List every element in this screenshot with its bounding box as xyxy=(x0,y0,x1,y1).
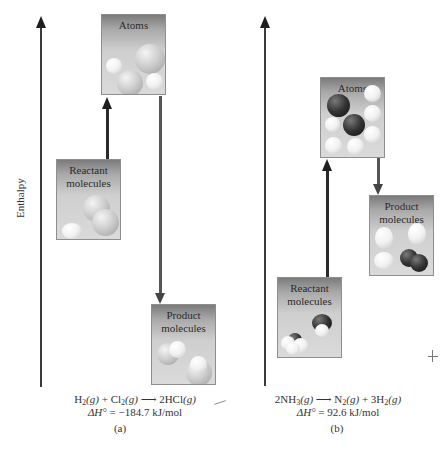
hydrogen-molecule xyxy=(408,223,426,245)
hydrogen-molecule xyxy=(374,252,394,269)
enthalpy-axis-b xyxy=(264,26,266,386)
down-arrowhead-icon xyxy=(155,293,165,304)
bond-breaking-arrow-a xyxy=(106,108,109,159)
caption-b: (b) xyxy=(282,421,392,435)
atoms-label: Atoms xyxy=(102,19,165,32)
atoms-box-b: Atoms xyxy=(320,77,385,158)
hydrogen-atom xyxy=(347,138,364,155)
reactant-label: Reactant molecules xyxy=(57,164,120,190)
hydrogen-atom xyxy=(364,85,381,102)
chlorine-atom xyxy=(117,70,143,95)
caption-a: (a) xyxy=(60,421,180,435)
enthalpy-axis-a xyxy=(40,26,42,387)
up-arrowhead-icon xyxy=(322,159,332,171)
chlorine-atom xyxy=(135,44,165,74)
reactant-molecules-box-b: Reactant molecules xyxy=(277,277,342,358)
nitrogen-atom xyxy=(410,254,428,272)
nitrogen-atom xyxy=(343,114,365,136)
bond-forming-arrow-a xyxy=(159,96,162,293)
reaction-arrow-icon: ⟶ xyxy=(313,393,334,405)
hydrogen-atom xyxy=(106,58,122,74)
atoms-box-a: Atoms xyxy=(101,14,166,95)
reactant-molecules-box-a: Reactant molecules xyxy=(56,159,121,240)
delta-h-a: ΔH° = −184.7 kJ/mol xyxy=(60,405,210,419)
bond-breaking-arrow-b xyxy=(326,170,329,277)
pen-mark xyxy=(214,400,226,405)
delta-h-b: ΔH° = 92.6 kJ/mol xyxy=(268,405,408,419)
hydrogen-atom xyxy=(190,356,207,373)
product-molecules-box-a: Product molecules xyxy=(151,304,216,385)
chlorine-atom xyxy=(92,209,119,236)
hydrogen-molecule xyxy=(62,223,82,239)
nitrogen-atom xyxy=(327,94,350,117)
hydrogen-atom xyxy=(146,73,163,90)
product-label: Product molecules xyxy=(152,309,215,335)
hydrogen-atom xyxy=(315,324,329,337)
bond-forming-arrow-b xyxy=(377,158,380,185)
hydrogen-atom xyxy=(169,341,186,358)
product-label: Product molecules xyxy=(370,200,433,226)
pen-mark xyxy=(428,356,438,357)
hydrogen-atom xyxy=(364,105,381,122)
hydrogen-atom xyxy=(325,117,340,132)
hydrogen-atom xyxy=(364,126,381,143)
up-arrowhead-icon xyxy=(102,97,112,109)
axis-arrowhead-icon xyxy=(36,16,46,28)
reaction-arrow-icon: ⟶ xyxy=(138,393,159,405)
reactant-label: Reactant molecules xyxy=(278,282,341,308)
axis-arrowhead-icon xyxy=(260,16,270,28)
hydrogen-atom xyxy=(286,342,300,355)
equation-b: 2NH3(g) ⟶ N2(g) + 3H2(g) xyxy=(268,392,408,406)
equation-a: H2(g) + Cl2(g) ⟶ 2HCl(g) xyxy=(60,392,210,406)
down-arrowhead-icon xyxy=(373,184,383,195)
hydrogen-molecule xyxy=(375,227,393,249)
product-molecules-box-b: Product molecules xyxy=(369,195,434,276)
enthalpy-axis-label: Enthalpy xyxy=(14,178,26,218)
hydrogen-atom xyxy=(325,137,342,154)
